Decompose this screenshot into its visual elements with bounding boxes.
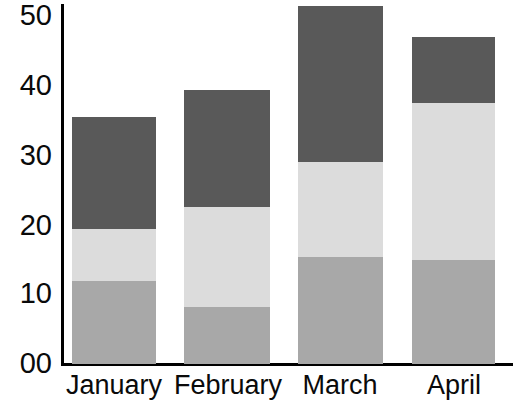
- bar-january-segment-middle: [72, 229, 156, 281]
- y-axis-tick-20: 20: [0, 211, 52, 240]
- y-axis-line: [61, 4, 64, 366]
- bar-april: [412, 37, 495, 364]
- bar-january-segment-top: [72, 117, 156, 229]
- bar-april-segment-top: [412, 37, 495, 103]
- bar-april-segment-bottom: [412, 260, 495, 364]
- bar-february: [184, 90, 270, 364]
- bar-march: [298, 6, 383, 364]
- bar-march-segment-middle: [298, 162, 383, 257]
- stacked-bar-chart: 50 40 30 20 10 00 January February March…: [0, 0, 514, 404]
- bar-march-segment-bottom: [298, 257, 383, 364]
- bar-february-segment-middle: [184, 207, 270, 307]
- y-axis-tick-10: 10: [0, 279, 52, 308]
- x-axis-label-april: April: [410, 370, 498, 400]
- bar-february-segment-top: [184, 90, 270, 207]
- y-axis-tick-30: 30: [0, 141, 52, 170]
- bar-march-segment-top: [298, 6, 383, 162]
- y-axis-tick-40: 40: [0, 71, 52, 100]
- x-axis-label-february: February: [172, 370, 284, 400]
- bar-april-segment-middle: [412, 103, 495, 260]
- x-axis-label-january: January: [62, 370, 166, 400]
- bar-january-segment-bottom: [72, 281, 156, 364]
- x-axis-label-march: March: [292, 370, 388, 400]
- y-axis-tick-00: 00: [0, 349, 52, 378]
- bar-february-segment-bottom: [184, 307, 270, 364]
- bar-january: [72, 117, 156, 364]
- y-axis-tick-50: 50: [0, 1, 52, 30]
